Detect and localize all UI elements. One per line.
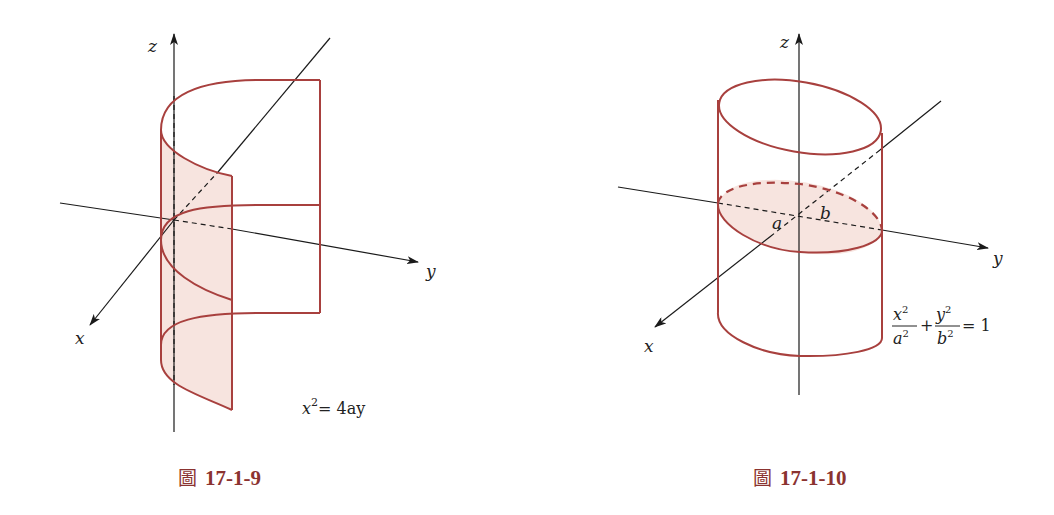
top-ellipse [713,68,887,165]
y-axis-left-part [60,203,174,220]
bottom-ellipse-front [718,312,882,356]
x-label: x [644,336,654,356]
svg-text:= 1: = 1 [962,316,991,335]
figures-canvas: z y x x2= 4ay a b z y x [0,0,1054,515]
z-label: z [779,32,790,52]
svg-text:x2: x2 [893,304,908,324]
svg-text:+: + [920,316,933,335]
y-axis-left-part [618,187,718,203]
top-parabola [161,80,320,130]
figure-glyph: 圖 [178,467,197,489]
caption-17-1-10: 圖17-1-10 [753,463,847,491]
svg-text:y2: y2 [935,304,951,324]
x-axis-back [218,38,330,172]
equation-parabolic: x2= 4ay [302,396,365,418]
caption-number: 17-1-10 [780,466,847,490]
caption-17-1-9: 圖17-1-9 [178,463,261,491]
equation-elliptic: x2 a2 + y2 b2 = 1 [892,304,991,348]
label-a: a [772,213,782,233]
x-axis [655,236,771,327]
parabolic-sheet-fill [161,130,232,410]
figure-17-1-10: a b z y x x2 a2 + y2 b2 = 1 [618,32,1003,395]
caption-number: 17-1-9 [205,466,261,490]
y-label: y [425,261,436,281]
figure-17-1-9: z y x x2= 4ay [60,34,436,432]
x-label: x [75,328,85,348]
z-label: z [147,36,158,56]
y-label: y [992,248,1003,268]
svg-text:b2: b2 [937,328,954,348]
svg-text:a2: a2 [893,328,909,348]
x-axis-back [880,101,941,150]
figure-glyph: 圖 [753,467,772,489]
y-axis [232,229,418,262]
y-axis [882,230,988,248]
label-b: b [820,203,831,223]
